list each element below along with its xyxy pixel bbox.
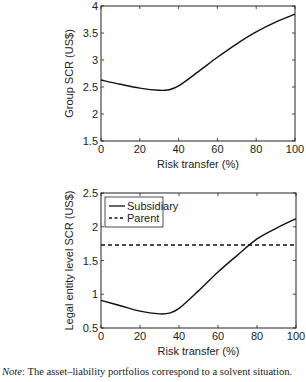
note-text: : The asset–liability portfolios corresp… bbox=[22, 366, 292, 377]
x-tick-label: 60 bbox=[211, 143, 223, 155]
x-axis-label: Risk transfer (%) bbox=[157, 158, 239, 170]
y-tick-label: 1.5 bbox=[83, 135, 98, 147]
x-tick-label: 40 bbox=[173, 330, 185, 342]
x-tick-label: 80 bbox=[250, 143, 262, 155]
x-tick-label: 100 bbox=[287, 330, 305, 342]
figure-note: Note: The asset–liability portfolios cor… bbox=[2, 366, 292, 377]
note-label: Note bbox=[2, 366, 22, 377]
x-tick-label: 20 bbox=[134, 143, 146, 155]
legend: SubsidiaryParent bbox=[105, 197, 179, 227]
y-tick-label: 2.5 bbox=[83, 187, 98, 199]
y-tick-label: 4 bbox=[92, 0, 98, 12]
y-tick-label: 2 bbox=[92, 221, 98, 233]
legal-entity-scr-plot: 0204060801000.511.522.5Risk transfer (%)… bbox=[63, 187, 305, 357]
x-tick-label: 80 bbox=[251, 330, 263, 342]
x-axis-label: Risk transfer (%) bbox=[158, 345, 240, 357]
y-tick-label: 2 bbox=[92, 108, 98, 120]
x-tick-label: 60 bbox=[212, 330, 224, 342]
y-axis-label: Group SCR (US$) bbox=[63, 29, 75, 118]
legend-entry-parent: Parent bbox=[127, 212, 159, 224]
x-tick-label: 100 bbox=[286, 143, 304, 155]
x-tick-label: 20 bbox=[134, 330, 146, 342]
y-tick-label: 1.5 bbox=[83, 255, 98, 267]
y-tick-label: 2.5 bbox=[83, 81, 98, 93]
x-tick-label: 0 bbox=[98, 330, 104, 342]
series-subsidiary-line bbox=[101, 219, 296, 314]
chart-figure: 0204060801001.522.533.54Risk transfer (%… bbox=[0, 0, 306, 382]
y-tick-label: 3.5 bbox=[83, 27, 98, 39]
x-tick-label: 0 bbox=[98, 143, 104, 155]
group-scr-plot: 0204060801001.522.533.54Risk transfer (%… bbox=[63, 0, 304, 170]
y-axis-label: Legal entity level SCR (US$) bbox=[63, 190, 75, 330]
x-tick-label: 40 bbox=[172, 143, 184, 155]
y-tick-label: 1 bbox=[92, 288, 98, 300]
y-tick-label: 0.5 bbox=[83, 322, 98, 334]
legend-entry-subsidiary: Subsidiary bbox=[127, 200, 179, 212]
series-group-line bbox=[101, 14, 295, 90]
y-tick-label: 3 bbox=[92, 54, 98, 66]
